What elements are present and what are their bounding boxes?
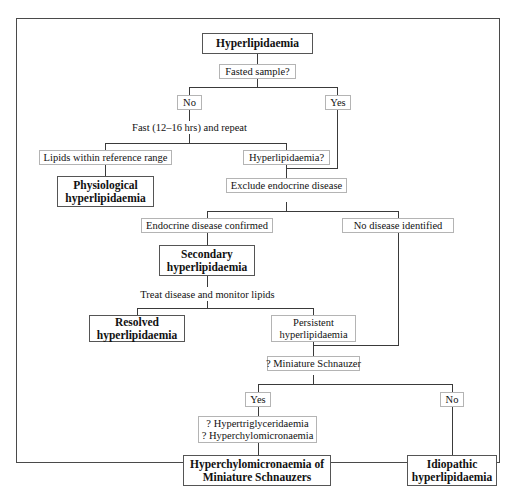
connector-yes-to-questions: [258, 407, 259, 416]
connector-merge-to-schnauzer: [313, 345, 314, 356]
connector-to-yes: [337, 87, 338, 95]
connector-fasted-split-bar: [189, 87, 338, 88]
connector-questions-to-terminal: [258, 443, 259, 455]
connector-schnauzer-down: [313, 375, 314, 384]
connector-fast-down: [189, 134, 190, 143]
label-schnauzer-no[interactable]: No: [440, 392, 464, 407]
connector-to-hyperlip-q: [286, 143, 287, 150]
connector-fasted-down: [257, 78, 258, 87]
node-hyperlipidaemia-question[interactable]: Hyperlipidaemia?: [243, 150, 330, 165]
node-lipids-within-reference-range[interactable]: Lipids within reference range: [39, 150, 172, 165]
node-endocrine-disease-confirmed[interactable]: Endocrine disease confirmed: [141, 218, 273, 233]
connector-to-schnauzer-yes: [258, 384, 259, 392]
node-secondary-hyperlipidaemia[interactable]: Secondary hyperlipidaemia: [159, 245, 255, 276]
connector-to-no-disease: [398, 211, 399, 218]
connector-endocrine-to-secondary: [207, 232, 208, 245]
connector-schnauzer-split-bar: [258, 384, 453, 385]
node-miniature-schnauzer-question[interactable]: ? Miniature Schnauzer: [267, 356, 360, 371]
node-idiopathic-hyperlipidaemia[interactable]: Idiopathic hyperlipidaemia: [407, 455, 497, 486]
connector-treat-down: [207, 300, 208, 308]
node-hyperchylomicronaemia-schnauzers[interactable]: Hyperchylomicronaemia of Miniature Schna…: [183, 455, 331, 486]
connector-merge-to-exclude: [286, 168, 287, 178]
label-branch-no[interactable]: No: [177, 95, 202, 110]
label-schnauzer-yes[interactable]: Yes: [245, 392, 271, 407]
connector-no-to-idiopathic: [452, 407, 453, 455]
text-treat-disease-monitor-lipids: Treat disease and monitor lipids: [130, 288, 285, 301]
connector-to-persistent: [313, 308, 314, 315]
connector-to-resolved: [137, 308, 138, 315]
connector-yes-merge-bar: [286, 168, 338, 169]
diagram-frame: Hyperlipidaemia Fasted sample? No Yes Fa…: [16, 18, 500, 463]
connector-schnauzer-merge-bar: [313, 345, 399, 346]
connector-nodisease-vertical: [398, 232, 399, 346]
node-persistent-hyperlipidaemia[interactable]: Persistent hyperlipidaemia: [271, 315, 356, 342]
connector-to-schnauzer-no: [452, 384, 453, 392]
connector-to-no: [189, 87, 190, 95]
connector-secondary-to-treat: [207, 276, 208, 287]
label-branch-yes[interactable]: Yes: [325, 95, 351, 110]
node-physiological-hyperlipidaemia[interactable]: Physiological hyperlipidaemia: [57, 176, 154, 207]
connector-fast-split-bar: [105, 143, 287, 144]
node-no-disease-identified[interactable]: No disease identified: [342, 218, 454, 233]
connector-no-to-fast: [189, 110, 190, 121]
connector-root-to-fasted: [257, 54, 258, 64]
connector-exclude-down: [286, 202, 287, 211]
text-fast-and-repeat: Fast (12–16 hrs) and repeat: [117, 121, 262, 134]
node-hyper-questions[interactable]: ? Hypertriglyceridaemia ? Hyperchylomicr…: [198, 416, 317, 443]
connector-exclude-split-bar: [207, 211, 399, 212]
connector-treat-split-bar: [137, 308, 314, 309]
node-hyperlipidaemia-root[interactable]: Hyperlipidaemia: [202, 33, 313, 54]
node-resolved-hyperlipidaemia[interactable]: Resolved hyperlipidaemia: [89, 315, 185, 342]
node-fasted-sample[interactable]: Fasted sample?: [219, 64, 296, 79]
connector-lipids-to-physiological: [105, 164, 106, 176]
connector-yes-vertical: [337, 110, 338, 169]
node-exclude-endocrine-disease[interactable]: Exclude endocrine disease: [226, 178, 347, 193]
connector-to-endocrine-confirmed: [207, 211, 208, 218]
